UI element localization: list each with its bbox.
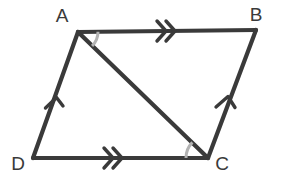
- parallelogram-diagram: A B C D: [0, 0, 290, 182]
- diagonal-ac: [78, 32, 208, 158]
- vertex-label-c: C: [215, 153, 229, 174]
- vertex-label-b: B: [250, 4, 263, 25]
- geometry-figure: A B C D: [0, 0, 290, 182]
- vertex-label-d: D: [11, 153, 25, 174]
- side-bc: [208, 30, 256, 158]
- side-ad: [33, 32, 78, 158]
- angle-arc-c: [186, 142, 192, 158]
- vertex-label-a: A: [56, 5, 69, 26]
